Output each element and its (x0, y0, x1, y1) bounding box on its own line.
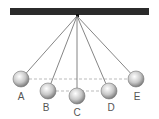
string-b (51, 16, 77, 84)
label-b: B (43, 102, 50, 113)
bob-a (13, 71, 29, 87)
support-bar (10, 8, 149, 15)
label-d: D (107, 102, 114, 113)
string-a (26, 16, 77, 73)
bob-b (40, 83, 56, 99)
bob-e (128, 71, 144, 87)
label-e: E (134, 91, 141, 102)
string-d (77, 16, 106, 84)
string-e (77, 16, 131, 73)
label-a: A (18, 91, 25, 102)
bob-d (101, 83, 117, 99)
pendulum-diagram: ABCDE (0, 0, 159, 119)
bob-c (69, 88, 85, 104)
label-c: C (73, 107, 80, 118)
pendulum-positions: ABCDE (13, 16, 144, 118)
pendulum-svg: ABCDE (0, 0, 159, 119)
